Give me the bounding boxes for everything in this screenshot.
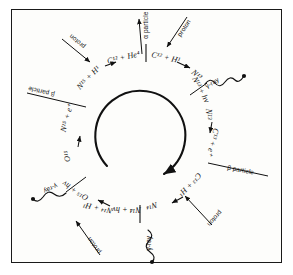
- reaction-right-mid-a: N¹³: [204, 109, 212, 120]
- reaction-bottom-right-product: N¹⁴: [145, 200, 158, 210]
- label-alpha-particle: α particle: [143, 12, 149, 39]
- circular-arrow-icon: [95, 91, 185, 174]
- gamma-wave-icon: [33, 76, 244, 262]
- reaction-bottom-center: N¹⁴ + hν: [112, 205, 141, 213]
- diagram-linework: [0, 0, 293, 275]
- label-gamma-bottom: γ-ray: [146, 236, 152, 251]
- figure-canvas: N¹⁵ + H¹ C¹² + He⁴ C¹² + H¹ N¹³ N¹³ + hν…: [0, 0, 293, 275]
- pointer-lines: [27, 17, 268, 255]
- arrow-left: [78, 136, 80, 147]
- reaction-left-mid-a: O¹⁵: [63, 150, 72, 162]
- beta-left-stem: [27, 93, 86, 107]
- reaction-divider-icon: [140, 44, 146, 223]
- arrow-bottom-right: [172, 197, 183, 203]
